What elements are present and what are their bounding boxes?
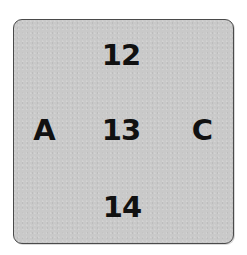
right-letter-label: C — [192, 116, 212, 145]
center-ambiguous-label: 13 — [102, 116, 140, 145]
bottom-number-label: 14 — [103, 193, 141, 222]
top-number-label: 12 — [102, 41, 140, 70]
left-letter-label: A — [33, 116, 54, 145]
